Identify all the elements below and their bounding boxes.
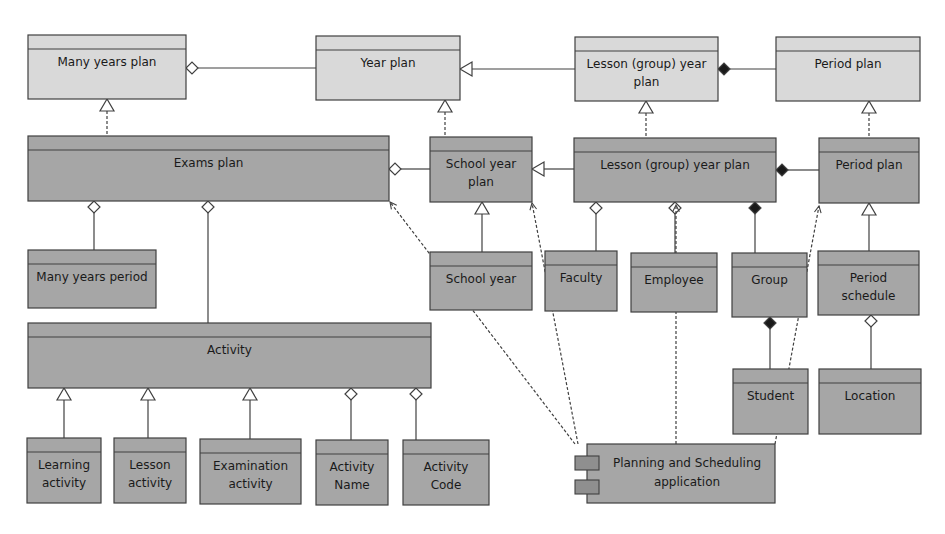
composition-diamond-icon xyxy=(749,202,761,214)
class-label: Employee xyxy=(644,273,703,287)
aggregation-diamond-icon xyxy=(202,201,214,213)
class-label: Activity xyxy=(330,460,375,474)
class-label: School year xyxy=(446,272,516,286)
class-activity[interactable]: Activity xyxy=(28,323,431,388)
aggregation-diamond-icon xyxy=(590,202,602,214)
composition-diamond-icon xyxy=(764,317,776,329)
class-year-plan[interactable]: Year plan xyxy=(316,36,460,100)
aggregation-diamond-icon xyxy=(186,62,198,74)
class-label: Year plan xyxy=(359,56,415,70)
class-label: Activity xyxy=(424,460,469,474)
class-examination-activity[interactable]: Examinationactivity xyxy=(200,439,301,504)
aggregation-diamond-icon xyxy=(345,388,357,400)
component-label: application xyxy=(654,475,720,489)
realization-triangle-icon xyxy=(862,101,876,113)
class-many-years-plan[interactable]: Many years plan xyxy=(28,35,186,99)
class-period-plan[interactable]: Period plan xyxy=(819,138,919,203)
class-label: activity xyxy=(42,476,86,490)
generalization-triangle-icon xyxy=(475,202,489,214)
class-label: Examination xyxy=(213,459,288,473)
class-label: Many years period xyxy=(36,270,147,284)
component-planning-scheduling-application[interactable]: Planning and Schedulingapplication xyxy=(575,444,775,503)
class-label: schedule xyxy=(842,289,896,303)
aggregation-diamond-icon xyxy=(865,315,877,327)
class-learning-activity[interactable]: Learningactivity xyxy=(27,438,101,503)
aggregation-diamond-icon xyxy=(669,202,681,214)
class-label: Group xyxy=(751,273,788,287)
class-label: Period plan xyxy=(835,158,902,172)
class-label: Exams plan xyxy=(174,156,244,170)
class-label: Many years plan xyxy=(58,55,157,69)
class-exams-plan[interactable]: Exams plan xyxy=(28,136,389,201)
class-group[interactable]: Group xyxy=(732,253,807,317)
composition-diamond-icon xyxy=(776,164,788,176)
generalization-triangle-icon xyxy=(460,62,472,76)
class-label: plan xyxy=(634,75,660,89)
class-label: Name xyxy=(334,478,369,492)
class-label: Period plan xyxy=(814,57,881,71)
aggregation-diamond-icon xyxy=(410,388,422,400)
class-period-plan-abstract[interactable]: Period plan xyxy=(776,37,920,101)
aggregation-diamond-icon xyxy=(88,201,100,213)
class-label: plan xyxy=(468,175,494,189)
class-label: Activity xyxy=(207,343,252,357)
realization-triangle-icon xyxy=(438,100,452,112)
generalization-triangle-icon xyxy=(532,162,544,176)
generalization-triangle-icon xyxy=(862,203,876,215)
component-box xyxy=(587,444,775,503)
class-activity-code[interactable]: ActivityCode xyxy=(403,440,489,505)
class-location[interactable]: Location xyxy=(819,369,921,434)
class-activity-name[interactable]: ActivityName xyxy=(316,440,388,505)
class-school-year[interactable]: School year xyxy=(430,252,532,310)
class-lesson-group-year-plan-abstract[interactable]: Lesson (group) yearplan xyxy=(575,37,718,101)
composition-diamond-icon xyxy=(718,63,730,75)
aggregation-diamond-icon xyxy=(389,163,401,175)
generalization-triangle-icon xyxy=(141,388,155,400)
class-label: Faculty xyxy=(560,271,603,285)
class-label: activity xyxy=(228,477,272,491)
component-label: Planning and Scheduling xyxy=(613,456,761,470)
class-label: activity xyxy=(128,476,172,490)
class-student[interactable]: Student xyxy=(733,369,808,434)
class-label: Code xyxy=(431,478,462,492)
class-label: Student xyxy=(747,389,795,403)
class-label: Lesson xyxy=(129,458,170,472)
class-label: Lesson (group) year xyxy=(587,57,707,71)
generalization-triangle-icon xyxy=(57,388,71,400)
class-label: Period xyxy=(850,271,887,285)
dependency-planning-scheduling-app-to-school-year-plan[interactable] xyxy=(532,203,578,444)
class-lesson-group-year-plan[interactable]: Lesson (group) year plan xyxy=(574,138,776,202)
class-school-year-plan[interactable]: School yearplan xyxy=(430,137,532,202)
class-label: Location xyxy=(845,389,896,403)
component-port-icon xyxy=(575,480,599,494)
component-port-icon xyxy=(575,456,599,470)
realization-triangle-icon xyxy=(639,101,653,113)
uml-class-diagram: Many years planYear planLesson (group) y… xyxy=(0,0,945,534)
class-label: Lesson (group) year plan xyxy=(600,158,750,172)
realization-triangle-icon xyxy=(100,99,114,111)
class-many-years-period[interactable]: Many years period xyxy=(28,250,156,308)
generalization-triangle-icon xyxy=(243,388,257,400)
class-employee[interactable]: Employee xyxy=(631,253,717,312)
class-period-schedule[interactable]: Periodschedule xyxy=(818,251,919,315)
class-lesson-activity[interactable]: Lessonactivity xyxy=(114,438,186,503)
class-label: Learning xyxy=(38,458,90,472)
class-label: School year xyxy=(446,157,516,171)
class-faculty[interactable]: Faculty xyxy=(545,251,617,311)
